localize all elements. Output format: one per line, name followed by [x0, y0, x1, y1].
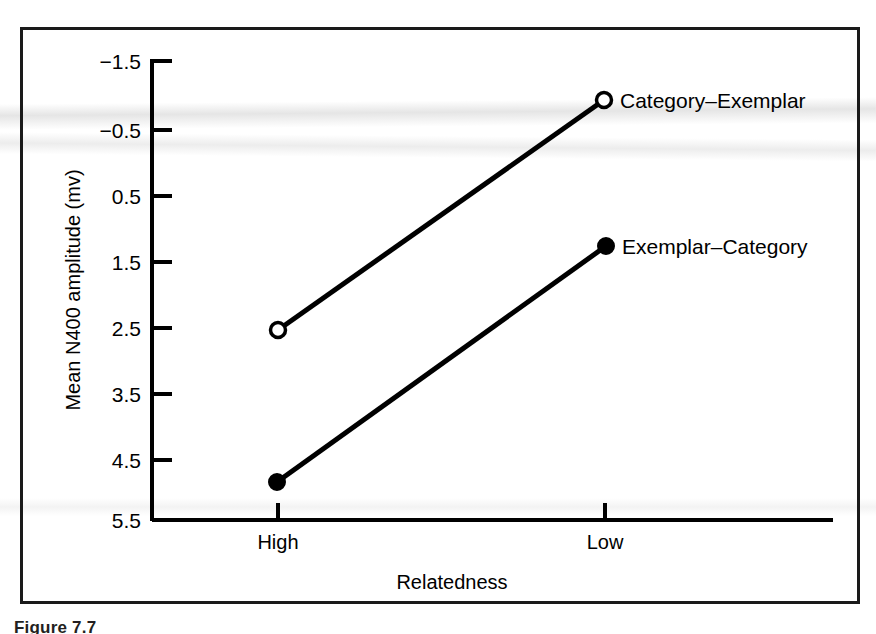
x-tick-label-low: Low [587, 531, 624, 553]
y-tick-label-7: 5.5 [112, 509, 141, 532]
figure-caption: Figure 7.7 [14, 618, 96, 634]
y-tick-label-4: 2.5 [112, 317, 141, 340]
series-exemplar-category-line [277, 246, 606, 482]
x-axis-ticks [278, 503, 605, 520]
line-chart: −1.5 −0.5 0.5 1.5 2.5 3.5 4.5 5.5 Mean N… [0, 0, 876, 634]
data-point-exemplar-category-high [269, 474, 285, 490]
y-axis-ticks [152, 61, 172, 460]
series-label-exemplar-category: Exemplar–Category [622, 235, 808, 258]
y-tick-label-2: 0.5 [112, 185, 141, 208]
y-tick-label-0: −1.5 [100, 50, 141, 73]
y-tick-label-6: 4.5 [112, 449, 141, 472]
y-axis-title: Mean N400 amplitude (mv) [62, 169, 84, 410]
y-tick-label-5: 3.5 [112, 383, 141, 406]
series-exemplar-category [269, 238, 614, 490]
y-tick-label-1: −0.5 [100, 119, 141, 142]
series-category-exemplar [271, 93, 612, 338]
series-category-exemplar-line [278, 100, 604, 330]
x-tick-label-high: High [257, 531, 298, 553]
y-tick-label-3: 1.5 [112, 251, 141, 274]
data-point-exemplar-category-low [598, 238, 614, 254]
figure-panel: −1.5 −0.5 0.5 1.5 2.5 3.5 4.5 5.5 Mean N… [0, 0, 876, 634]
series-label-category-exemplar: Category–Exemplar [620, 89, 806, 112]
x-axis-title: Relatedness [396, 571, 507, 593]
data-point-category-exemplar-high [271, 323, 286, 338]
data-point-category-exemplar-low [597, 93, 612, 108]
